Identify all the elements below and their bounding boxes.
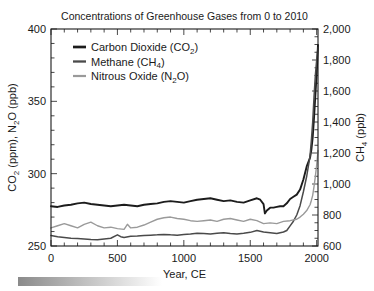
- y-left-tick-label: 300: [28, 168, 46, 180]
- text-part: O): [177, 70, 189, 82]
- text-part: ): [161, 56, 165, 68]
- x-tick-label: 500: [108, 252, 126, 264]
- decorative-gradient-bar: [18, 277, 162, 286]
- y-right-tick-label: 800: [323, 209, 341, 221]
- x-tick-label: 1500: [238, 252, 262, 264]
- x-axis-title: Year, CE: [163, 268, 206, 280]
- y-right-tick-label: 1,600: [323, 85, 351, 97]
- greenhouse-gas-chart-figure: Concentrations of Greenhouse Gases from …: [0, 0, 374, 291]
- y-left-tick-label: 250: [28, 240, 46, 252]
- text-part: Carbon Dioxide (CO: [91, 41, 190, 53]
- x-tick-label: 0: [48, 252, 54, 264]
- y-right-tick-label: 600: [323, 240, 341, 252]
- y-right-tick-label: 1,400: [323, 116, 351, 128]
- text-part: ): [195, 41, 199, 53]
- chart-canvas: Concentrations of Greenhouse Gases from …: [0, 0, 374, 291]
- y-right-tick-label: 1,000: [323, 178, 351, 190]
- text-part: O (ppb): [6, 83, 18, 120]
- y-right-tick-label: 2,000: [323, 23, 351, 35]
- y-left-tick-label: 400: [28, 23, 46, 35]
- text-part: CH: [354, 146, 366, 162]
- y-left-tick-label: 350: [28, 95, 46, 107]
- y-right-axis-title: CH4 (ppb): [354, 113, 369, 162]
- text-part: Nitrous Oxide (N: [91, 70, 172, 82]
- y-right-tick-label: 1,800: [323, 54, 351, 66]
- chart-title: Concentrations of Greenhouse Gases from …: [61, 10, 308, 22]
- text-part: Methane (CH: [91, 56, 156, 68]
- text-part: CO: [6, 175, 18, 192]
- y-right-tick-label: 1,200: [323, 147, 351, 159]
- x-tick-label: 1000: [172, 252, 196, 264]
- text-part: (ppb): [354, 113, 366, 142]
- y-left-axis-title: CO2 (ppm), N2O (ppb): [6, 83, 21, 192]
- x-tick-label: 2000: [304, 252, 328, 264]
- text-part: (ppm), N: [6, 125, 18, 171]
